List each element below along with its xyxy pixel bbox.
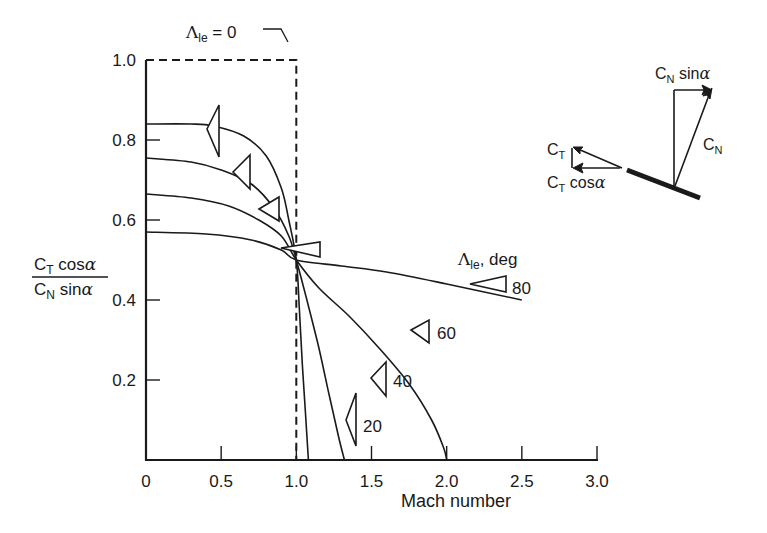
chart: 00.51.01.52.02.53.0 0.20.40.60.81.0 Λle … [0, 0, 767, 533]
y-tick-label: 1.0 [112, 51, 136, 70]
y-ticks: 0.20.40.60.81.0 [112, 51, 160, 390]
y-label-numerator: CT cosα [34, 254, 97, 277]
series-60-label-marker-icon [411, 320, 429, 343]
x-tick-label: 2.5 [510, 472, 534, 491]
x-tick-label: 1.0 [285, 472, 309, 491]
inset-label-cn: CN [703, 136, 723, 156]
ct-cos-arrowhead-icon [573, 163, 583, 173]
x-tick-label: 3.0 [585, 472, 609, 491]
y-axis-label: CT cosα CN sinα [32, 254, 108, 302]
x-axis-label: Mach number [401, 491, 511, 511]
series-line-20 [146, 124, 308, 460]
series-label-80: 80 [512, 279, 531, 298]
ct-arrow [578, 149, 622, 168]
reference-line-lambda-zero [146, 60, 296, 460]
plate-icon [627, 170, 700, 198]
marker-group [207, 105, 506, 446]
inset-label-cn-sin: CN sinα [655, 64, 710, 85]
series-label-20: 20 [363, 417, 382, 436]
x-ticks: 00.51.01.52.02.53.0 [141, 446, 609, 491]
x-tick-label: 0 [141, 472, 150, 491]
y-tick-label: 0.8 [112, 131, 136, 150]
series-20-label-marker-icon [346, 393, 356, 446]
series-label-40: 40 [393, 372, 412, 391]
x-tick-label: 0.5 [209, 472, 233, 491]
series-group [146, 124, 522, 460]
series-40-label-marker-icon [371, 362, 386, 396]
reference-label-leader [263, 29, 288, 42]
inset-label-ct: CT [547, 141, 566, 161]
series-20-marker-icon [207, 105, 219, 157]
series-line-40 [146, 158, 344, 460]
series-40-marker-icon [233, 155, 250, 189]
inset-label-ct-cos: CT cosα [547, 173, 606, 194]
reference-label: Λle = 0 [185, 22, 236, 45]
x-tick-label: 1.5 [360, 472, 384, 491]
y-tick-label: 0.6 [112, 211, 136, 230]
x-tick-label: 2.0 [435, 472, 459, 491]
y-label-denominator: CN sinα [34, 279, 93, 302]
legend-title: Λle, deg [457, 249, 517, 272]
y-tick-label: 0.4 [112, 291, 136, 310]
y-tick-label: 0.2 [112, 371, 136, 390]
series-label-60: 60 [437, 324, 456, 343]
